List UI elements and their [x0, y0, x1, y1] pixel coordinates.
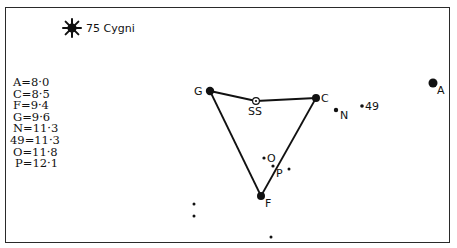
sun-star-icon — [63, 19, 81, 37]
star-n-label: N — [340, 109, 348, 122]
title-label: 75 Cygni — [86, 22, 135, 35]
legend-item: P=12·1 — [15, 158, 60, 170]
star-chart: 75 Cygni G C F A SS N 49 O P — [0, 0, 457, 248]
triangle-lines — [210, 91, 316, 196]
magnitude-legend: A=8·0 C=8·5 F=9·4 G=9·6 N=11·3 49=11·3 O… — [13, 77, 60, 170]
field-star — [193, 203, 196, 206]
star-c — [312, 94, 320, 102]
star-f — [257, 192, 265, 200]
field-star — [288, 168, 291, 171]
star-o-label: O — [267, 152, 276, 165]
star-o — [262, 156, 265, 159]
ss-marker-icon — [253, 98, 260, 105]
field-star — [193, 215, 196, 218]
star-n — [334, 108, 338, 112]
star-49 — [360, 104, 364, 108]
ss-label: SS — [248, 105, 262, 118]
field-star — [270, 236, 273, 239]
star-f-label: F — [265, 197, 271, 210]
star-49-label: 49 — [365, 100, 379, 113]
star-c-label: C — [321, 92, 329, 105]
star-a-label: A — [437, 84, 445, 97]
star-g-label: G — [194, 85, 203, 98]
star-g — [206, 87, 214, 95]
star-p — [271, 164, 274, 167]
star-p-label: P — [276, 167, 283, 180]
